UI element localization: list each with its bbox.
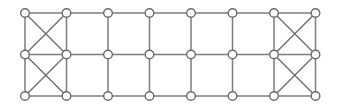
graph-node xyxy=(104,92,113,101)
graph-figure xyxy=(0,0,338,108)
graph-node xyxy=(228,9,237,18)
graph-node xyxy=(21,50,30,59)
graph-node xyxy=(145,9,154,18)
graph-node xyxy=(270,9,279,18)
graph-node xyxy=(228,50,237,59)
graph-node xyxy=(62,9,71,18)
graph-node xyxy=(311,50,320,59)
graph-node xyxy=(104,50,113,59)
graph-node xyxy=(311,9,320,18)
graph-node xyxy=(228,92,237,101)
graph-node xyxy=(270,92,279,101)
graph-node xyxy=(270,50,279,59)
graph-node xyxy=(187,50,196,59)
graph-node xyxy=(187,9,196,18)
graph-node xyxy=(145,50,154,59)
graph-node xyxy=(62,50,71,59)
graph-node xyxy=(311,92,320,101)
graph-node xyxy=(21,9,30,18)
graph-node xyxy=(145,92,154,101)
graph-canvas xyxy=(0,0,338,108)
graph-node xyxy=(187,92,196,101)
graph-node xyxy=(104,9,113,18)
graph-node xyxy=(21,92,30,101)
graph-node xyxy=(62,92,71,101)
